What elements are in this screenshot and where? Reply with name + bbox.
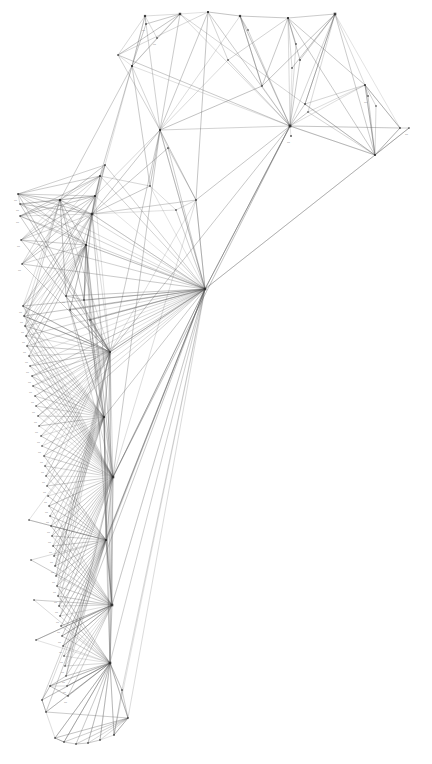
graph-node[interactable] [105,539,107,541]
graph-node[interactable] [38,425,39,426]
graph-node[interactable] [290,135,292,137]
graph-node[interactable] [48,505,49,506]
graph-node[interactable] [299,59,301,61]
graph-node[interactable] [91,213,93,215]
graph-node[interactable] [261,85,263,87]
graph-node[interactable] [59,199,61,201]
graph-node[interactable] [111,604,114,607]
graph-node[interactable] [41,445,42,446]
graph-node[interactable] [304,103,306,105]
graph-node[interactable] [45,475,46,476]
graph-node[interactable] [375,105,376,106]
graph-node[interactable] [87,742,89,744]
graph-node[interactable] [44,465,45,466]
graph-node[interactable] [112,476,115,479]
graph-node[interactable] [287,17,289,19]
graph-node[interactable] [65,295,67,297]
graph-node[interactable] [117,54,119,56]
graph-node[interactable] [145,23,147,25]
graph-node[interactable] [195,199,197,201]
graph-node[interactable] [19,215,20,216]
graph-node[interactable] [67,695,68,696]
graph-node[interactable] [33,599,34,600]
graph-node[interactable] [364,84,366,86]
graph-node[interactable] [307,111,308,112]
graph-node[interactable] [57,595,58,596]
graph-node[interactable] [50,525,51,526]
graph-node[interactable] [167,147,169,149]
graph-node[interactable] [159,129,161,131]
graph-node[interactable] [21,263,22,264]
graph-node[interactable] [207,11,209,13]
graph-node[interactable] [19,203,20,204]
graph-node[interactable] [22,305,24,307]
graph-node[interactable] [41,699,43,701]
graph-node[interactable] [61,635,62,636]
graph-node[interactable] [58,605,59,606]
graph-node[interactable] [53,555,54,556]
graph-node[interactable] [59,615,60,616]
graph-node[interactable] [24,325,25,326]
graph-node[interactable] [127,717,129,719]
graph-node[interactable] [35,639,36,640]
graph-node[interactable] [63,741,65,743]
graph-node[interactable] [56,585,57,586]
graph-node[interactable] [99,175,101,177]
graph-node[interactable] [247,29,248,30]
graph-node[interactable] [40,435,41,436]
graph-node[interactable] [204,288,207,291]
graph-node[interactable] [46,485,47,486]
graph-node[interactable] [62,645,63,646]
graph-node[interactable] [37,415,38,416]
graph-node[interactable] [55,575,56,576]
graph-node[interactable] [227,59,229,61]
graph-node[interactable] [66,685,67,686]
graph-node[interactable] [113,734,115,736]
graph-node[interactable] [63,655,64,656]
graph-node[interactable] [94,195,96,197]
graph-node[interactable] [20,239,21,240]
graph-node[interactable] [64,665,65,666]
graph-node[interactable] [131,65,133,67]
graph-node[interactable] [54,737,56,739]
graph-node[interactable] [144,15,146,17]
graph-node[interactable] [291,67,293,69]
graph-node[interactable] [408,127,409,128]
graph-node[interactable] [104,164,106,166]
graph-node[interactable] [54,565,55,566]
graph-node[interactable] [49,685,51,687]
graph-node[interactable] [149,185,151,187]
graph-node[interactable] [156,37,158,39]
graph-node[interactable] [45,711,47,713]
graph-node[interactable] [334,13,337,16]
graph-node[interactable] [239,15,241,17]
graph-node[interactable] [121,689,123,691]
graph-node[interactable] [109,351,111,353]
graph-node[interactable] [103,416,105,418]
graph-node[interactable] [367,95,369,97]
graph-node[interactable] [69,309,70,310]
graph-node[interactable] [374,154,376,156]
graph-node[interactable] [26,345,27,346]
graph-node[interactable] [35,405,36,406]
graph-node[interactable] [43,455,44,456]
graph-node[interactable] [295,43,297,45]
graph-node[interactable] [28,519,29,520]
graph-node[interactable] [34,395,35,396]
graph-node[interactable] [52,545,53,546]
graph-node[interactable] [25,335,26,336]
graph-node[interactable] [32,385,33,386]
graph-node[interactable] [399,127,401,129]
graph-node[interactable] [85,244,87,246]
graph-node[interactable] [29,365,30,366]
graph-node[interactable] [65,675,66,676]
graph-node[interactable] [179,13,181,15]
graph-node[interactable] [175,209,177,211]
graph-node[interactable] [23,315,24,316]
graph-node[interactable] [99,739,101,741]
graph-node[interactable] [17,193,19,195]
graph-node[interactable] [75,743,77,745]
graph-node[interactable] [89,319,90,320]
graph-node[interactable] [51,535,52,536]
graph-node[interactable] [83,299,85,301]
